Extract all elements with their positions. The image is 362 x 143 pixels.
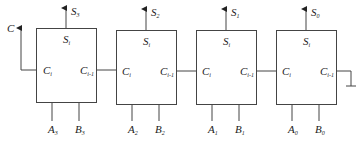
sum-pin-label: Si: [303, 35, 311, 48]
cin-pin-label: Ci: [43, 64, 52, 77]
cin-pin-label: Ci: [282, 65, 291, 78]
sum-pin-label: Si: [63, 33, 71, 46]
sum-out-label-3: S3: [71, 5, 80, 18]
cout-pin-label: Ci-1: [80, 64, 94, 77]
sum-pin-label: Si: [143, 35, 151, 48]
input-a-label-1: A1: [207, 123, 218, 136]
cout-pin-label: Ci-1: [240, 65, 254, 78]
sum-pin-label: Si: [223, 35, 231, 48]
carry-out-label: C: [7, 22, 15, 34]
cout-pin-label: Ci-1: [320, 65, 334, 78]
cin-pin-label: Ci: [122, 65, 131, 78]
input-b-label-0: B0: [315, 123, 325, 136]
input-a-label-3: A3: [47, 123, 58, 136]
cin-pin-label: Ci: [202, 65, 211, 78]
ground-wire: [336, 71, 351, 86]
sum-out-label-2: S2: [151, 6, 160, 19]
sum-out-label-1: S1: [231, 6, 240, 19]
input-a-label-2: A2: [127, 123, 138, 136]
input-b-label-1: B1: [235, 123, 245, 136]
input-b-label-3: B3: [75, 123, 85, 136]
input-a-label-0: A0: [287, 123, 298, 136]
input-b-label-2: B2: [155, 123, 165, 136]
cout-pin-label: Ci-1: [160, 65, 174, 78]
ripple-adder-diagram: C S3 Si Ci Ci-1 A3 B3 S2 Si Ci Ci-1 A2 B…: [0, 0, 362, 143]
sum-out-label-0: S0: [311, 6, 320, 19]
carry-out-wire: [21, 28, 36, 70]
